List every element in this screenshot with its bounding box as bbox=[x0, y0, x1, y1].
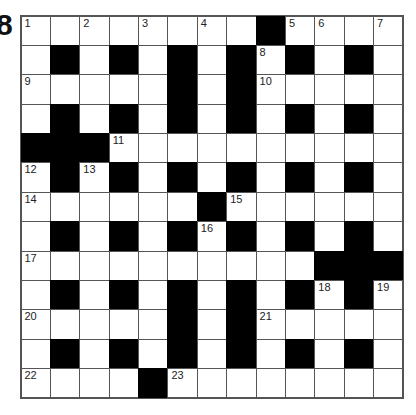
grid-cell[interactable] bbox=[109, 74, 139, 104]
grid-cell[interactable] bbox=[256, 280, 286, 310]
grid-cell[interactable] bbox=[50, 368, 80, 398]
grid-cell[interactable] bbox=[21, 280, 51, 310]
grid-cell[interactable] bbox=[197, 45, 227, 75]
grid-cell[interactable]: 22 bbox=[21, 368, 51, 398]
grid-cell[interactable] bbox=[79, 368, 109, 398]
grid-cell[interactable] bbox=[109, 192, 139, 222]
grid-cell[interactable] bbox=[21, 339, 51, 369]
grid-cell[interactable]: 13 bbox=[79, 162, 109, 192]
grid-cell[interactable]: 19 bbox=[373, 280, 403, 310]
grid-cell[interactable] bbox=[79, 251, 109, 281]
grid-cell[interactable]: 11 bbox=[109, 133, 139, 163]
grid-cell[interactable] bbox=[197, 309, 227, 339]
grid-cell[interactable] bbox=[79, 192, 109, 222]
grid-cell[interactable] bbox=[197, 251, 227, 281]
grid-cell[interactable] bbox=[344, 133, 374, 163]
grid-cell[interactable] bbox=[21, 221, 51, 251]
grid-cell[interactable] bbox=[344, 368, 374, 398]
grid-cell[interactable] bbox=[373, 45, 403, 75]
grid-cell[interactable] bbox=[138, 339, 168, 369]
grid-cell[interactable] bbox=[285, 251, 315, 281]
grid-cell[interactable]: 8 bbox=[256, 45, 286, 75]
grid-cell[interactable] bbox=[373, 104, 403, 134]
grid-cell[interactable]: 7 bbox=[373, 16, 403, 46]
grid-cell[interactable] bbox=[138, 45, 168, 75]
grid-cell[interactable] bbox=[197, 280, 227, 310]
grid-cell[interactable] bbox=[109, 16, 139, 46]
grid-cell[interactable] bbox=[50, 192, 80, 222]
grid-cell[interactable] bbox=[256, 339, 286, 369]
grid-cell[interactable]: 2 bbox=[79, 16, 109, 46]
grid-cell[interactable] bbox=[226, 133, 256, 163]
grid-cell[interactable] bbox=[256, 221, 286, 251]
grid-cell[interactable] bbox=[226, 16, 256, 46]
grid-cell[interactable]: 6 bbox=[314, 16, 344, 46]
grid-cell[interactable] bbox=[314, 133, 344, 163]
grid-cell[interactable] bbox=[256, 162, 286, 192]
grid-cell[interactable] bbox=[109, 309, 139, 339]
grid-cell[interactable] bbox=[197, 104, 227, 134]
grid-cell[interactable] bbox=[314, 192, 344, 222]
grid-cell[interactable] bbox=[138, 133, 168, 163]
grid-cell[interactable] bbox=[138, 251, 168, 281]
grid-cell[interactable] bbox=[138, 104, 168, 134]
grid-cell[interactable] bbox=[256, 368, 286, 398]
grid-cell[interactable] bbox=[197, 368, 227, 398]
grid-cell[interactable]: 12 bbox=[21, 162, 51, 192]
grid-cell[interactable] bbox=[314, 162, 344, 192]
grid-cell[interactable] bbox=[138, 74, 168, 104]
grid-cell[interactable] bbox=[344, 192, 374, 222]
grid-cell[interactable] bbox=[138, 162, 168, 192]
grid-cell[interactable]: 23 bbox=[167, 368, 197, 398]
grid-cell[interactable]: 15 bbox=[226, 192, 256, 222]
grid-cell[interactable] bbox=[167, 192, 197, 222]
grid-cell[interactable] bbox=[314, 339, 344, 369]
grid-cell[interactable] bbox=[197, 133, 227, 163]
grid-cell[interactable]: 5 bbox=[285, 16, 315, 46]
grid-cell[interactable] bbox=[256, 133, 286, 163]
grid-cell[interactable] bbox=[79, 74, 109, 104]
grid-cell[interactable] bbox=[197, 339, 227, 369]
grid-cell[interactable] bbox=[285, 368, 315, 398]
grid-cell[interactable] bbox=[79, 45, 109, 75]
grid-cell[interactable] bbox=[314, 309, 344, 339]
grid-cell[interactable] bbox=[373, 74, 403, 104]
grid-cell[interactable] bbox=[167, 251, 197, 281]
grid-cell[interactable] bbox=[373, 309, 403, 339]
grid-cell[interactable] bbox=[344, 74, 374, 104]
grid-cell[interactable] bbox=[50, 16, 80, 46]
grid-cell[interactable]: 18 bbox=[314, 280, 344, 310]
grid-cell[interactable] bbox=[226, 251, 256, 281]
grid-cell[interactable] bbox=[138, 280, 168, 310]
grid-cell[interactable] bbox=[373, 368, 403, 398]
grid-cell[interactable] bbox=[373, 221, 403, 251]
grid-cell[interactable] bbox=[256, 192, 286, 222]
grid-cell[interactable] bbox=[79, 339, 109, 369]
grid-cell[interactable] bbox=[50, 74, 80, 104]
grid-cell[interactable] bbox=[373, 162, 403, 192]
grid-cell[interactable] bbox=[21, 45, 51, 75]
grid-cell[interactable] bbox=[373, 339, 403, 369]
grid-cell[interactable]: 10 bbox=[256, 74, 286, 104]
grid-cell[interactable] bbox=[344, 309, 374, 339]
grid-cell[interactable] bbox=[21, 104, 51, 134]
grid-cell[interactable] bbox=[197, 162, 227, 192]
grid-cell[interactable]: 20 bbox=[21, 309, 51, 339]
grid-cell[interactable] bbox=[285, 309, 315, 339]
grid-cell[interactable] bbox=[285, 133, 315, 163]
grid-cell[interactable]: 1 bbox=[21, 16, 51, 46]
grid-cell[interactable]: 21 bbox=[256, 309, 286, 339]
grid-cell[interactable] bbox=[79, 221, 109, 251]
grid-cell[interactable] bbox=[314, 74, 344, 104]
grid-cell[interactable] bbox=[79, 104, 109, 134]
grid-cell[interactable]: 9 bbox=[21, 74, 51, 104]
grid-cell[interactable] bbox=[138, 221, 168, 251]
grid-cell[interactable] bbox=[256, 104, 286, 134]
grid-cell[interactable] bbox=[138, 192, 168, 222]
grid-cell[interactable] bbox=[314, 221, 344, 251]
grid-cell[interactable] bbox=[138, 309, 168, 339]
grid-cell[interactable]: 4 bbox=[197, 16, 227, 46]
grid-cell[interactable] bbox=[50, 251, 80, 281]
grid-cell[interactable] bbox=[167, 133, 197, 163]
grid-cell[interactable] bbox=[109, 368, 139, 398]
